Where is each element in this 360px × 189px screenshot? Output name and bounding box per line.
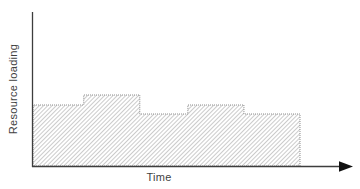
x-axis-label: Time (146, 171, 171, 183)
resource-loading-chart: Resource loading Time (0, 0, 360, 189)
y-axis-label: Resource loading (7, 44, 19, 134)
x-axis-arrow-icon (339, 161, 353, 172)
resource-loading-area (33, 95, 300, 166)
chart-canvas (0, 0, 360, 189)
